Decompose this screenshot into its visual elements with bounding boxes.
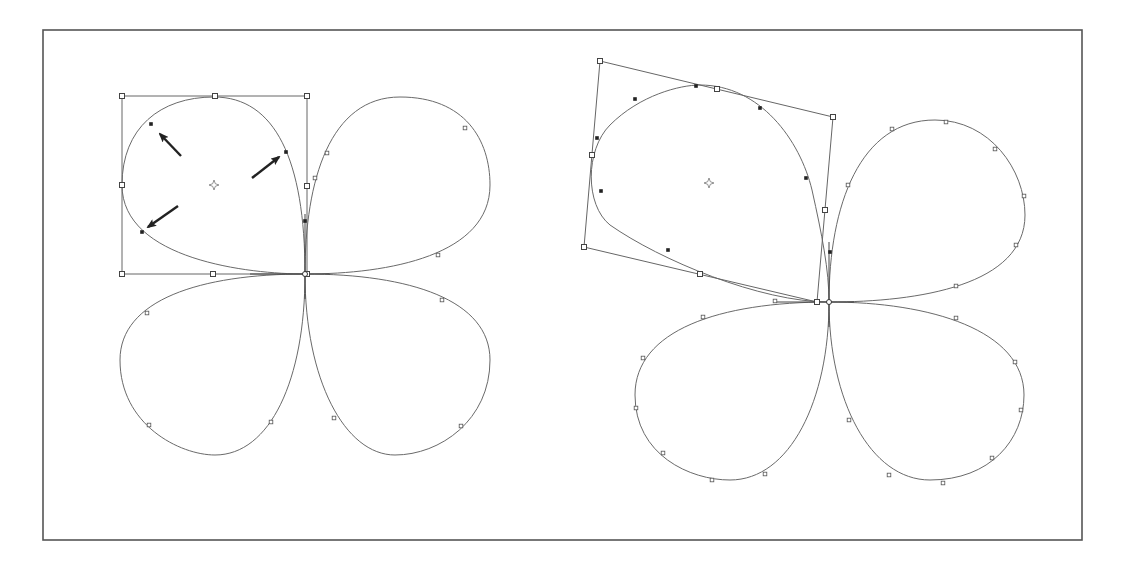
resize-handle[interactable]	[698, 272, 703, 277]
anchor-point[interactable]	[954, 284, 958, 288]
selected-anchor-point[interactable]	[140, 230, 144, 234]
selected-anchor-point[interactable]	[595, 136, 599, 140]
arrow-up-right-icon	[252, 157, 279, 178]
resize-handle[interactable]	[598, 59, 603, 64]
anchor-point[interactable]	[459, 424, 463, 428]
resize-handle[interactable]	[305, 184, 310, 189]
figure-frame	[43, 30, 1082, 540]
petal-bottom-right[interactable]	[829, 302, 1024, 480]
anchor-point[interactable]	[990, 456, 994, 460]
anchor-point[interactable]	[313, 176, 317, 180]
transform-bounding-box[interactable]	[584, 61, 833, 302]
anchor-point[interactable]	[773, 299, 777, 303]
clover-scaling-diagram	[0, 0, 1122, 570]
right-clover-transformed	[582, 59, 1026, 485]
anchor-point[interactable]	[944, 120, 948, 124]
anchor-point[interactable]	[1014, 243, 1018, 247]
anchor-point[interactable]	[941, 481, 945, 485]
resize-handle[interactable]	[815, 300, 820, 305]
selected-anchor-point[interactable]	[599, 189, 603, 193]
arrow-down-left-icon	[148, 206, 178, 227]
resize-handle[interactable]	[305, 94, 310, 99]
anchor-point[interactable]	[890, 127, 894, 131]
anchor-point[interactable]	[710, 478, 714, 482]
resize-handle[interactable]	[582, 245, 587, 250]
resize-handle[interactable]	[831, 115, 836, 120]
anchor-point[interactable]	[634, 406, 638, 410]
selected-anchor-point[interactable]	[758, 106, 762, 110]
anchor-point[interactable]	[661, 451, 665, 455]
petal-top-left-rotated[interactable]	[591, 85, 829, 302]
selected-anchor-point[interactable]	[828, 250, 832, 254]
resize-handle[interactable]	[120, 94, 125, 99]
anchor-point[interactable]	[436, 253, 440, 257]
shared-anchor-point[interactable]	[303, 272, 308, 277]
anchor-point[interactable]	[463, 126, 467, 130]
petal-bottom-left[interactable]	[120, 274, 305, 455]
anchor-point[interactable]	[440, 298, 444, 302]
selected-anchor-point[interactable]	[633, 97, 637, 101]
anchor-point[interactable]	[846, 183, 850, 187]
selected-anchor-point[interactable]	[303, 219, 307, 223]
anchor-point[interactable]	[887, 473, 891, 477]
anchor-point[interactable]	[701, 315, 705, 319]
selected-anchor-point[interactable]	[804, 176, 808, 180]
anchor-point[interactable]	[332, 416, 336, 420]
anchor-point[interactable]	[954, 316, 958, 320]
left-clover-original	[120, 94, 491, 456]
anchor-point[interactable]	[1013, 360, 1017, 364]
anchor-point[interactable]	[641, 356, 645, 360]
anchor-point[interactable]	[145, 311, 149, 315]
resize-handle[interactable]	[211, 272, 216, 277]
resize-handle[interactable]	[823, 208, 828, 213]
anchor-point[interactable]	[325, 151, 329, 155]
anchor-point[interactable]	[147, 423, 151, 427]
selected-anchor-point[interactable]	[666, 248, 670, 252]
resize-handle[interactable]	[590, 153, 595, 158]
anchor-point[interactable]	[847, 418, 851, 422]
transform-center-icon[interactable]	[704, 178, 714, 188]
anchor-point[interactable]	[1019, 408, 1023, 412]
resize-handle[interactable]	[715, 87, 720, 92]
anchor-point[interactable]	[269, 420, 273, 424]
petal-top-right[interactable]	[305, 97, 490, 274]
transform-center-icon[interactable]	[209, 180, 219, 190]
resize-handle[interactable]	[213, 94, 218, 99]
resize-handle[interactable]	[120, 272, 125, 277]
selected-anchor-point[interactable]	[694, 84, 698, 88]
anchor-point[interactable]	[993, 147, 997, 151]
shared-anchor-point[interactable]	[827, 300, 832, 305]
arrow-up-left-icon	[160, 134, 181, 156]
resize-handle[interactable]	[120, 183, 125, 188]
figure-canvas	[0, 0, 1122, 570]
anchor-point[interactable]	[1022, 194, 1026, 198]
selected-anchor-point[interactable]	[284, 150, 288, 154]
anchor-point[interactable]	[763, 472, 767, 476]
selected-anchor-point[interactable]	[149, 122, 153, 126]
